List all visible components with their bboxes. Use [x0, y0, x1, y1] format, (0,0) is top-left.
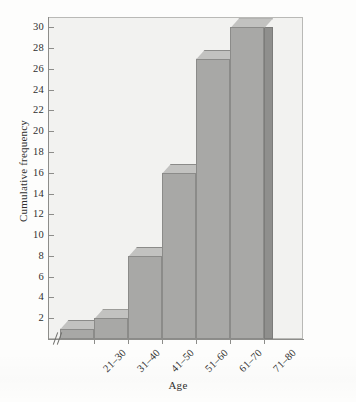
x-tick-label-41–50: 41–50 — [169, 347, 196, 374]
y-tick-label-16: 16 — [33, 168, 44, 179]
bar-front-face — [196, 59, 230, 339]
bar-front-face — [128, 256, 162, 339]
y-tick-22 — [49, 110, 54, 111]
y-tick-16 — [49, 173, 54, 174]
y-tick-label-30: 30 — [33, 22, 44, 33]
y-tick-30 — [49, 27, 54, 28]
y-tick-label-14: 14 — [33, 189, 44, 200]
y-tick-4 — [49, 297, 54, 298]
x-axis-title: Age — [0, 379, 356, 391]
bar-front-face — [94, 318, 128, 339]
x-tick-71–80 — [264, 340, 265, 344]
axis-break-icon — [52, 332, 64, 346]
y-tick-label-2: 2 — [39, 313, 44, 324]
y-tick-18 — [49, 152, 54, 153]
y-tick-label-6: 6 — [39, 272, 44, 283]
x-tick-51–60 — [196, 340, 197, 344]
y-axis-title: Cumulative frequency — [17, 96, 29, 246]
y-tick-14 — [49, 194, 54, 195]
x-tick-label-71–80: 71–80 — [271, 347, 298, 374]
y-tick-label-18: 18 — [33, 147, 44, 158]
x-tick-31–40 — [128, 340, 129, 344]
x-tick-21–30 — [94, 340, 95, 344]
x-tick-label-51–60: 51–60 — [203, 347, 230, 374]
y-tick-label-24: 24 — [33, 85, 44, 96]
y-tick-12 — [49, 214, 54, 215]
y-tick-2 — [49, 318, 54, 319]
x-tick-61–70 — [230, 340, 231, 344]
y-axis-line — [48, 17, 49, 340]
y-tick-label-12: 12 — [33, 209, 44, 220]
y-tick-label-22: 22 — [33, 105, 44, 116]
x-tick-label-21–30: 21–30 — [101, 347, 128, 374]
y-tick-26 — [49, 69, 54, 70]
y-tick-label-28: 28 — [33, 43, 44, 54]
y-tick-28 — [49, 48, 54, 49]
bar-front-face — [60, 329, 94, 339]
y-tick-label-26: 26 — [33, 64, 44, 75]
y-tick-10 — [49, 235, 54, 236]
y-tick-8 — [49, 256, 54, 257]
y-tick-label-10: 10 — [33, 230, 44, 241]
cumulative-frequency-chart: 24681012141618202224262830 Cumulative fr… — [0, 0, 356, 402]
bar-71–80 — [230, 18, 273, 339]
bar-front-face — [162, 173, 196, 339]
x-tick-label-61–70: 61–70 — [237, 347, 264, 374]
y-tick-20 — [49, 131, 54, 132]
bar-front-face — [230, 27, 264, 339]
y-tick-label-8: 8 — [39, 251, 44, 262]
y-tick-6 — [49, 277, 54, 278]
x-tick-label-31–40: 31–40 — [135, 347, 162, 374]
x-axis-line — [48, 339, 304, 340]
y-tick-label-20: 20 — [33, 126, 44, 137]
y-tick-label-4: 4 — [39, 292, 44, 303]
y-tick-24 — [49, 90, 54, 91]
bar-side-face — [264, 27, 273, 339]
x-tick-41–50 — [162, 340, 163, 344]
